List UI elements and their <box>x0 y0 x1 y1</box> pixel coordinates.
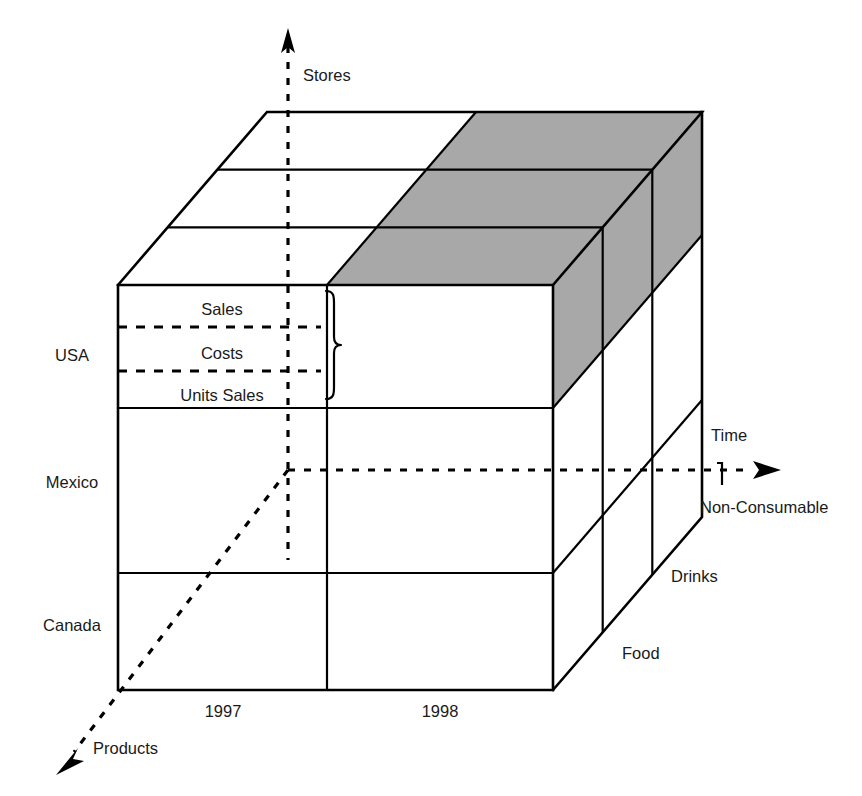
time-axis-label: Time <box>711 426 747 444</box>
measure-label-sales: Sales <box>201 300 242 318</box>
measure-label-costs: Costs <box>201 344 243 362</box>
products-axis-label: Products <box>93 739 158 757</box>
stores-axis-label: Stores <box>303 66 351 84</box>
measure-label-units-sales: Units Sales <box>180 386 263 404</box>
product-label-drinks: Drinks <box>671 567 718 585</box>
olap-cube-diagram: Stores Time Products Sales Costs Units S… <box>0 0 862 796</box>
store-label-mexico: Mexico <box>46 473 98 491</box>
time-label-1997: 1997 <box>205 702 242 720</box>
store-label-usa: USA <box>55 346 89 364</box>
time-label-1998: 1998 <box>422 702 459 720</box>
product-label-food: Food <box>622 644 660 662</box>
store-label-canada: Canada <box>43 616 102 634</box>
product-label-non-consumable: Non-Consumable <box>700 498 828 516</box>
